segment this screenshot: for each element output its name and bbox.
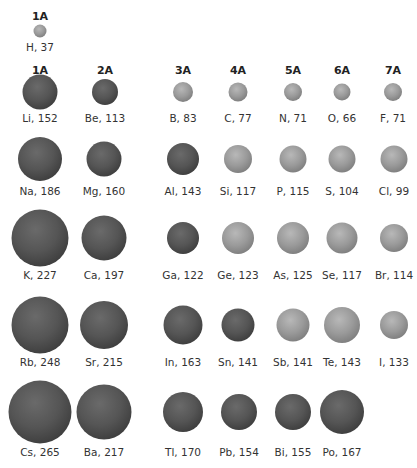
atom-sn	[222, 309, 255, 342]
label-k: K, 227	[23, 269, 57, 281]
atom-sb	[277, 309, 310, 342]
label-se: Se, 117	[322, 269, 362, 281]
label-be: Be, 113	[85, 112, 125, 124]
label-sb: Sb, 141	[273, 356, 313, 368]
atom-as	[277, 222, 309, 254]
atom-ba	[77, 385, 132, 440]
atom-h	[34, 25, 47, 38]
atom-in	[164, 306, 203, 345]
atom-br	[380, 224, 408, 252]
label-bi: Bi, 155	[275, 446, 312, 458]
label-ga: Ga, 122	[162, 269, 203, 281]
label-tl: Tl, 170	[165, 446, 201, 458]
label-li: Li, 152	[22, 112, 57, 124]
atom-al	[167, 143, 199, 175]
atom-c	[229, 83, 248, 102]
group-header-5a: 5A	[285, 64, 301, 77]
atom-f	[384, 83, 402, 101]
atom-o	[334, 84, 351, 101]
label-br: Br, 114	[375, 269, 413, 281]
label-cl: Cl, 99	[379, 185, 409, 197]
atom-te	[324, 307, 360, 343]
label-mg: Mg, 160	[83, 185, 125, 197]
atom-rb	[12, 297, 69, 354]
label-po: Po, 167	[322, 446, 361, 458]
atom-cs	[9, 381, 72, 444]
atom-n	[284, 83, 302, 101]
atom-be	[92, 79, 118, 105]
atom-cl	[381, 146, 408, 173]
label-c: C, 77	[224, 112, 251, 124]
label-rb: Rb, 248	[20, 356, 61, 368]
atom-tl	[163, 392, 203, 432]
label-as: As, 125	[273, 269, 312, 281]
group-header-2a: 2A	[97, 64, 113, 77]
label-in: In, 163	[165, 356, 201, 368]
label-h: H, 37	[26, 41, 54, 53]
label-n: N, 71	[279, 112, 307, 124]
label-sr: Sr, 215	[85, 356, 123, 368]
atom-bi	[275, 394, 311, 430]
label-ge: Ge, 123	[217, 269, 258, 281]
label-pb: Pb, 154	[219, 446, 259, 458]
atom-p	[280, 146, 307, 173]
label-ba: Ba, 217	[84, 446, 124, 458]
group-header-4a: 4A	[230, 64, 246, 77]
label-ca: Ca, 197	[84, 269, 124, 281]
atom-na	[18, 137, 62, 181]
atom-s	[329, 146, 356, 173]
group-header-3a: 3A	[175, 64, 191, 77]
group-header-h: 1A	[32, 10, 48, 23]
label-s: S, 104	[325, 185, 358, 197]
label-na: Na, 186	[19, 185, 60, 197]
atom-mg	[87, 142, 122, 177]
atom-b	[173, 82, 193, 102]
atom-ca	[82, 216, 127, 261]
label-b: B, 83	[169, 112, 196, 124]
atom-ga	[167, 222, 199, 254]
label-i: I, 133	[379, 356, 409, 368]
atom-i	[380, 311, 408, 339]
atom-po	[320, 390, 364, 434]
group-header-7a: 7A	[385, 64, 401, 77]
label-te: Te, 143	[323, 356, 361, 368]
atom-si	[224, 145, 252, 173]
atom-li	[23, 75, 58, 110]
label-sn: Sn, 141	[218, 356, 258, 368]
label-si: Si, 117	[220, 185, 256, 197]
label-p: P, 115	[276, 185, 309, 197]
atom-k	[12, 210, 69, 267]
label-o: O, 66	[328, 112, 356, 124]
atom-pb	[221, 394, 257, 430]
label-al: Al, 143	[165, 185, 202, 197]
label-cs: Cs, 265	[20, 446, 60, 458]
label-f: F, 71	[380, 112, 406, 124]
group-header-6a: 6A	[334, 64, 350, 77]
atom-sr	[80, 301, 128, 349]
atom-se	[327, 223, 358, 254]
atom-ge	[222, 222, 254, 254]
